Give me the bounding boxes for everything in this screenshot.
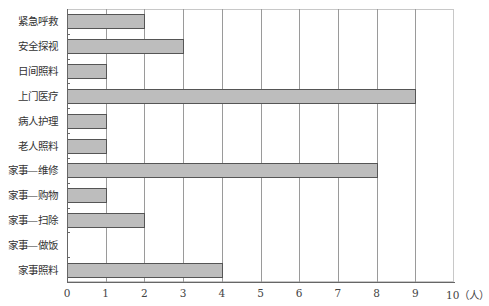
x-tick-label: 10（人） xyxy=(446,287,489,302)
x-axis xyxy=(67,282,455,283)
category-label: 安全探视 xyxy=(0,40,58,52)
gridline xyxy=(299,9,300,282)
bar xyxy=(67,139,107,154)
bar xyxy=(67,64,107,79)
bar xyxy=(67,163,378,178)
x-tick-label: 2 xyxy=(141,287,148,299)
category-label: 上门医疗 xyxy=(0,90,58,102)
bar xyxy=(67,188,107,203)
bar xyxy=(67,213,145,228)
gridline xyxy=(261,9,262,282)
x-tick-label: 8 xyxy=(373,287,380,299)
bar xyxy=(67,114,107,129)
x-tick-label: 5 xyxy=(257,287,264,299)
bar xyxy=(67,263,223,278)
gridline xyxy=(415,9,416,282)
category-label: 家事—做饭 xyxy=(0,239,58,251)
x-tick-label: 0 xyxy=(64,287,71,299)
bar xyxy=(67,39,184,54)
bar xyxy=(67,14,145,29)
gridline xyxy=(338,9,339,282)
category-label: 日间照料 xyxy=(0,65,58,77)
gridline xyxy=(222,9,223,282)
bar xyxy=(67,89,416,104)
x-tick-label: 4 xyxy=(218,287,225,299)
category-label: 老人照料 xyxy=(0,140,58,152)
category-label: 紧急呼救 xyxy=(0,15,58,27)
category-label: 家事—购物 xyxy=(0,189,58,201)
x-tick-label: 1 xyxy=(102,287,109,299)
category-label: 家事照料 xyxy=(0,264,58,276)
x-tick-label: 9 xyxy=(412,287,419,299)
x-tick-label: 6 xyxy=(296,287,303,299)
category-label: 家事—维修 xyxy=(0,164,58,176)
horizontal-bar-chart: 紧急呼救安全探视日间照料上门医疗病人护理老人照料家事—维修家事—购物家事—扫除家… xyxy=(0,0,489,306)
category-label: 家事—扫除 xyxy=(0,214,58,226)
y-axis xyxy=(67,9,68,283)
x-tick-label: 3 xyxy=(180,287,187,299)
x-tick-label: 7 xyxy=(335,287,342,299)
gridline xyxy=(377,9,378,282)
category-label: 病人护理 xyxy=(0,115,58,127)
